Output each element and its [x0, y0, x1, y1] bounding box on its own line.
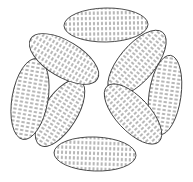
ellipse-rosette-diagram: topupper-rightrightlower-rightbottomlowe…	[0, 0, 193, 182]
figure-canvas: topupper-rightrightlower-rightbottomlowe…	[0, 0, 193, 182]
